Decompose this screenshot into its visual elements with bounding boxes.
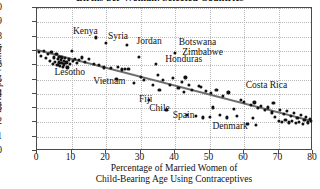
y-tick-label: 10 <box>0 2 2 12</box>
y-tick-label: 2 <box>0 116 2 126</box>
x-tick-mark <box>243 150 244 154</box>
y-tick-mark <box>32 7 36 8</box>
y-tick-mark <box>32 93 36 94</box>
x-tick-mark <box>209 150 210 154</box>
plot-area: KenyaSyriaJordanBotswanaZimbabweHonduras… <box>36 7 312 150</box>
x-axis-label: Percentage of Married Women of Child-Bea… <box>36 163 312 185</box>
y-tick-mark <box>32 64 36 65</box>
x-tick-mark <box>71 150 72 154</box>
y-tick-label: 8 <box>0 31 2 41</box>
x-tick-mark <box>278 150 279 154</box>
y-axis-label: Births per Woman <box>0 43 3 112</box>
y-tick-mark <box>32 79 36 80</box>
chart-title: Births per Woman, Selected Countries <box>0 0 320 1</box>
x-tick-mark <box>36 150 37 154</box>
trend-line <box>37 8 311 150</box>
y-tick-mark <box>32 50 36 51</box>
x-tick-mark <box>140 150 141 154</box>
y-tick-mark <box>32 107 36 108</box>
x-tick-mark <box>105 150 106 154</box>
y-tick-mark <box>32 36 36 37</box>
x-tick-mark <box>174 150 175 154</box>
y-tick-mark <box>32 121 36 122</box>
x-axis-label-line2: Child-Bearing Age Using Contraceptives <box>36 174 312 185</box>
x-axis-label-line1: Percentage of Married Women of <box>36 163 312 174</box>
chart-figure: Births per Woman, Selected Countries Ken… <box>0 0 320 189</box>
y-tick-label: 0 <box>0 145 2 155</box>
x-tick-mark <box>312 150 313 154</box>
y-tick-label: 1 <box>0 131 2 141</box>
y-tick-mark <box>32 136 36 137</box>
y-tick-label: 9 <box>0 16 2 26</box>
y-tick-mark <box>32 21 36 22</box>
